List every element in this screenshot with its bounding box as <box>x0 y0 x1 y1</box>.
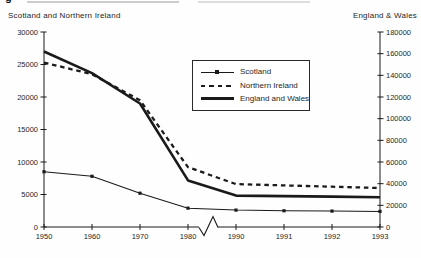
x-tick-label: 1950 <box>36 232 53 241</box>
thick-line-icon <box>201 97 234 100</box>
legend-item-northern-ireland: Northern Ireland <box>201 82 305 90</box>
scotland-data-point-marker <box>234 209 237 212</box>
y-left-tick-label: 5000 <box>21 190 38 199</box>
scotland-data-point-marker <box>282 209 285 212</box>
scotland-data-point-marker <box>186 207 189 210</box>
x-tick-label: 1993 <box>372 232 389 241</box>
legend-item-scotland: Scotland <box>201 68 305 76</box>
dashed-line-icon <box>201 85 234 87</box>
northern-ireland-line-sample-icon <box>201 83 234 89</box>
y-left-tick-label: 15000 <box>17 125 38 134</box>
y-right-tick-label: 140000 <box>386 71 411 80</box>
scotland-data-point-marker <box>42 170 45 173</box>
legend: Scotland Northern Ireland England and Wa… <box>192 60 310 111</box>
scotland-data-point-marker <box>330 209 333 212</box>
y-left-tick-label: 0 <box>34 223 38 232</box>
y-right-tick-label: 180000 <box>386 28 411 37</box>
legend-label-england-and-wales: England and Wales <box>240 95 309 103</box>
scotland-data-point-marker <box>138 192 141 195</box>
legend-label-northern-ireland: Northern Ireland <box>240 82 298 90</box>
legend-item-england-and-wales: England and Wales <box>201 95 305 103</box>
y-right-tick-label: 60000 <box>386 158 407 167</box>
y-right-tick-label: 20000 <box>386 201 407 210</box>
england-and-wales-line-sample-icon <box>201 96 234 102</box>
y-right-tick-label: 120000 <box>386 93 411 102</box>
legend-label-scotland: Scotland <box>240 68 271 76</box>
x-tick-label: 1980 <box>180 232 197 241</box>
x-tick-label: 1970 <box>132 232 149 241</box>
scanned-figure: g Scotland and Northern Ireland England … <box>0 0 421 258</box>
scotland-line-sample-icon <box>201 69 234 75</box>
x-tick-label: 1991 <box>276 232 293 241</box>
x-tick-label: 1990 <box>228 232 245 241</box>
y-right-tick-label: 100000 <box>386 114 411 123</box>
chart-canvas: 0500010000150002000025000300000200004000… <box>0 0 421 258</box>
y-right-tick-label: 80000 <box>386 136 407 145</box>
scotland-data-point-marker <box>90 175 93 178</box>
series-line-scotland <box>44 172 380 212</box>
y-right-tick-label: 160000 <box>386 49 411 58</box>
x-axis-break-icon <box>199 217 218 236</box>
y-right-tick-label: 40000 <box>386 179 407 188</box>
y-left-tick-label: 20000 <box>17 93 38 102</box>
y-left-tick-label: 30000 <box>17 28 38 37</box>
y-left-tick-label: 25000 <box>17 60 38 69</box>
y-right-tick-label: 0 <box>386 223 390 232</box>
x-tick-label: 1992 <box>324 232 341 241</box>
square-marker-icon <box>215 70 219 74</box>
y-left-tick-label: 10000 <box>17 158 38 167</box>
x-tick-label: 1960 <box>84 232 101 241</box>
scotland-data-point-marker <box>378 210 381 213</box>
